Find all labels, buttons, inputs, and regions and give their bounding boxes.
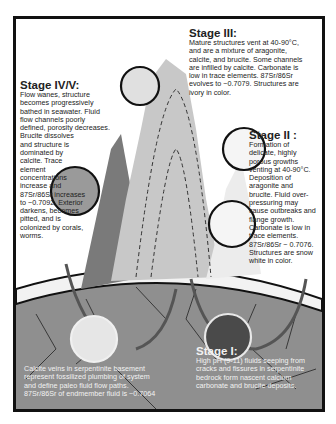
stage2-label: Stage II : Formation ofdelicate, highlyp…	[249, 129, 321, 265]
basement-inset	[71, 316, 117, 362]
stage45-label: Stage IV/V: Flow wanes, structurebecomes…	[20, 79, 130, 240]
text-line: worms.	[20, 231, 43, 240]
basement-label: Calcite veins in serpentinite basementre…	[24, 365, 184, 398]
text-line: ivory in color.	[189, 88, 231, 97]
text-line: white in color.	[249, 256, 293, 265]
stage1-label: Stage I: High pH (9-11) fluids seeping f…	[196, 345, 320, 390]
text-line: 87Sr/86Sr of endmember fluid is ~0.7064	[24, 389, 155, 398]
diagram-frame: Stage III: Mature structures vent at 40-…	[13, 16, 325, 412]
text-line: carbonate and brucite deposits.	[196, 381, 296, 390]
stage3-label: Stage III: Mature structures vent at 40-…	[189, 27, 317, 97]
